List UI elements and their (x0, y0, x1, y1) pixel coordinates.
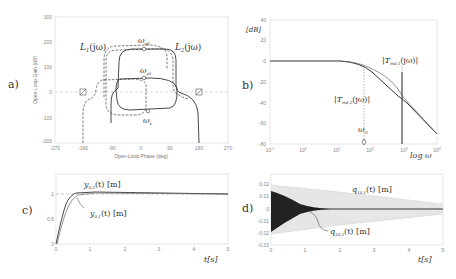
tick-label: 3 (158, 246, 161, 252)
panel-b-bode-magnitude: 40 20 0 -20 -40 -60 -80 10-1 100 101 102… (242, 17, 441, 160)
axes-frame (56, 174, 228, 244)
tick-label: 180 (195, 145, 204, 151)
tick-label: 101 (333, 147, 341, 153)
tick-label: -20 (259, 79, 266, 85)
tick-label: 102 (366, 147, 374, 153)
tick-label: 0 (140, 145, 143, 151)
panel-d-modal-displacement: 0.02 0.01 0 -0.01 -0.02 -0.03 0 1 2 3 4 … (242, 174, 445, 264)
x-axis-label: log ω (410, 151, 432, 160)
tick-label: 100 (44, 64, 53, 70)
tick-label: 10-1 (266, 147, 275, 153)
tick-label: 270 (224, 145, 233, 151)
tick-label: 4 (193, 246, 196, 252)
tick-label: 0 (55, 246, 58, 252)
tick-label: -0.02 (258, 230, 270, 236)
tick-label: 2 (124, 246, 127, 252)
tick-label: 4 (408, 247, 411, 253)
x-axis-label: t[s] (418, 255, 432, 264)
omega-p1-marker (142, 76, 146, 80)
tick-label: -40 (259, 100, 266, 106)
tick-label: -60 (259, 120, 266, 126)
tick-label: 0 (266, 206, 269, 212)
tick-label: 0 (263, 58, 266, 64)
tick-label: 0.02 (259, 181, 269, 187)
tick-label: -270 (50, 145, 60, 151)
omega-p0-marker (142, 47, 146, 51)
tick-label: -180 (78, 145, 88, 151)
tick-label: 1 (89, 246, 92, 252)
tick-label: 0.01 (259, 193, 269, 199)
tick-label: 2 (339, 247, 342, 253)
tick-label: 300 (44, 14, 53, 20)
tick-label: -100 (42, 115, 52, 121)
panel-label-a: a) (8, 78, 19, 91)
tick-label: 3 (373, 247, 376, 253)
panel-label-b: b) (242, 79, 253, 92)
y-axis-label: [dB] (246, 26, 261, 34)
x-axis-label: Open-Loop Phase (deg) (114, 153, 168, 159)
panel-label-d: d) (242, 202, 253, 215)
tick-label: 100 (299, 147, 307, 153)
tick-label: 1 (51, 191, 54, 197)
axes-frame (270, 20, 437, 144)
x-axis-label: t[s] (204, 255, 218, 264)
tick-label: 5 (442, 247, 445, 253)
label-T-md-2: |Tmd,2(jω)| (334, 95, 370, 105)
panel-label-c: c) (22, 204, 32, 217)
tick-label: 0 (270, 247, 273, 253)
tick-label: 103 (400, 147, 408, 153)
label-L1: L1(jω) (79, 42, 106, 53)
tick-label: -0.03 (258, 242, 270, 248)
tick-label: -200 (42, 138, 52, 144)
label-L2: L2(jω) (174, 42, 201, 53)
omega-s-marker (146, 109, 150, 113)
tick-label: 5 (227, 246, 230, 252)
tick-label: 0 (49, 89, 52, 95)
panel-c-step-response: 0 0.5 1 0 1 2 3 4 5 t[s] y0,2(t) [m] y0,… (22, 174, 230, 264)
tick-label: -90 (108, 145, 115, 151)
tick-label: 40 (260, 17, 266, 23)
tick-label: 1 (304, 247, 307, 253)
tick-label: 200 (44, 39, 53, 45)
tick-label: -0.01 (258, 218, 270, 224)
tick-label: 0.5 (47, 216, 54, 222)
tick-label: 103 (433, 147, 441, 153)
y-axis-label: Open-Loop Gain (dB) (32, 56, 38, 104)
panel-a-nichols-chart: 300 200 100 0 -100 -200 -270 -180 -90 0 … (8, 14, 232, 159)
tick-label: 20 (260, 37, 266, 43)
label-T-md-1: |Tmd,1(jω)| (382, 56, 418, 66)
tick-label: 90 (167, 145, 173, 151)
figure: 300 200 100 0 -100 -200 -270 -180 -90 0 … (0, 0, 456, 279)
